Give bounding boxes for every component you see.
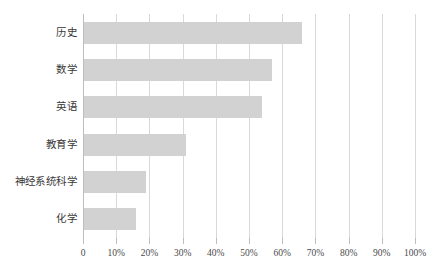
category-label: 数学 <box>56 59 77 81</box>
tick-mark-20 <box>149 238 150 244</box>
bar-row <box>83 59 415 81</box>
bar-row <box>83 171 415 193</box>
tick-mark-100 <box>415 238 416 244</box>
bar-row <box>83 208 415 230</box>
tick-mark-50 <box>249 238 250 244</box>
x-axis-tick-labels: 010%20%30%40%50%60%70%80%90%100% <box>0 246 437 264</box>
category-label: 历史 <box>56 22 77 44</box>
tick-mark-80 <box>349 238 350 244</box>
bar <box>83 96 262 118</box>
tick-mark-30 <box>183 238 184 244</box>
tick-mark-40 <box>216 238 217 244</box>
bar <box>83 208 136 230</box>
x-tick-label: 90% <box>373 246 390 260</box>
y-axis-line <box>83 14 84 238</box>
x-tick-label: 80% <box>340 246 357 260</box>
bar-row <box>83 134 415 156</box>
category-label: 教育学 <box>46 134 77 156</box>
x-tick-label: 70% <box>307 246 324 260</box>
plot-area <box>83 14 415 238</box>
tick-mark-90 <box>382 238 383 244</box>
tick-mark-70 <box>315 238 316 244</box>
x-tick-label: 40% <box>207 246 224 260</box>
category-label: 神经系统科学 <box>15 171 77 193</box>
bar-row <box>83 22 415 44</box>
category-label: 英语 <box>56 96 77 118</box>
tick-mark-60 <box>282 238 283 244</box>
tick-mark-0 <box>83 238 84 244</box>
bar <box>83 134 186 156</box>
x-tick-label: 10% <box>107 246 124 260</box>
x-tick-label: 50% <box>240 246 257 260</box>
x-tick-label: 0 <box>81 246 86 260</box>
bar-chart: 历史数学英语教育学神经系统科学化学 010%20%30%40%50%60%70%… <box>0 0 437 270</box>
bar-series <box>83 14 415 238</box>
x-tick-label: 30% <box>174 246 191 260</box>
gridline-100 <box>415 14 416 238</box>
x-tick-label: 60% <box>273 246 290 260</box>
x-tick-label: 100% <box>404 246 426 260</box>
bar <box>83 59 272 81</box>
bar-row <box>83 96 415 118</box>
bar <box>83 22 302 44</box>
category-axis-labels: 历史数学英语教育学神经系统科学化学 <box>0 14 77 238</box>
x-axis-tick-marks <box>83 238 415 244</box>
category-label: 化学 <box>56 208 77 230</box>
tick-mark-10 <box>116 238 117 244</box>
x-tick-label: 20% <box>141 246 158 260</box>
bar <box>83 171 146 193</box>
